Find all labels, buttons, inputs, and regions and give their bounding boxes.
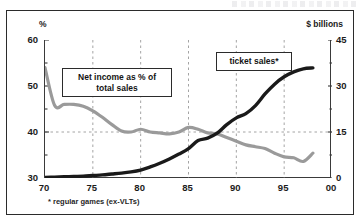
chart-footnote: * regular games (ex-VLTs) bbox=[48, 197, 139, 206]
x-axis-tick-90: 90 bbox=[230, 183, 241, 193]
chart-figure: % $ billions 30405060 0153045 7075808590… bbox=[6, 10, 354, 215]
right-axis-unit-label: $ billions bbox=[306, 19, 343, 29]
x-axis-tick-85: 85 bbox=[182, 183, 193, 193]
left-axis-tick-40: 40 bbox=[12, 127, 38, 137]
right-axis-tick-15: 15 bbox=[336, 127, 362, 137]
callout-net-income-line2: total sales bbox=[68, 83, 166, 94]
x-axis-tick-00: 00 bbox=[326, 183, 337, 193]
x-axis-tick-70: 70 bbox=[39, 183, 50, 193]
callout-ticket-sales: ticket sales* bbox=[216, 52, 292, 71]
x-axis-tick-95: 95 bbox=[278, 183, 289, 193]
left-axis-unit-label: % bbox=[39, 19, 47, 29]
left-axis-tick-30: 30 bbox=[12, 173, 38, 183]
callout-net-income-line1: Net income as % of bbox=[68, 72, 166, 83]
left-axis-tick-60: 60 bbox=[12, 35, 38, 45]
right-axis-tick-0: 0 bbox=[336, 173, 362, 183]
x-axis-tick-75: 75 bbox=[87, 183, 98, 193]
scan-artifact-strip bbox=[232, 1, 358, 7]
x-axis-tick-80: 80 bbox=[134, 183, 145, 193]
right-axis-tick-45: 45 bbox=[336, 35, 362, 45]
callout-net-income: Net income as % of total sales bbox=[62, 68, 172, 97]
right-axis-tick-30: 30 bbox=[336, 81, 362, 91]
left-axis-tick-50: 50 bbox=[12, 81, 38, 91]
